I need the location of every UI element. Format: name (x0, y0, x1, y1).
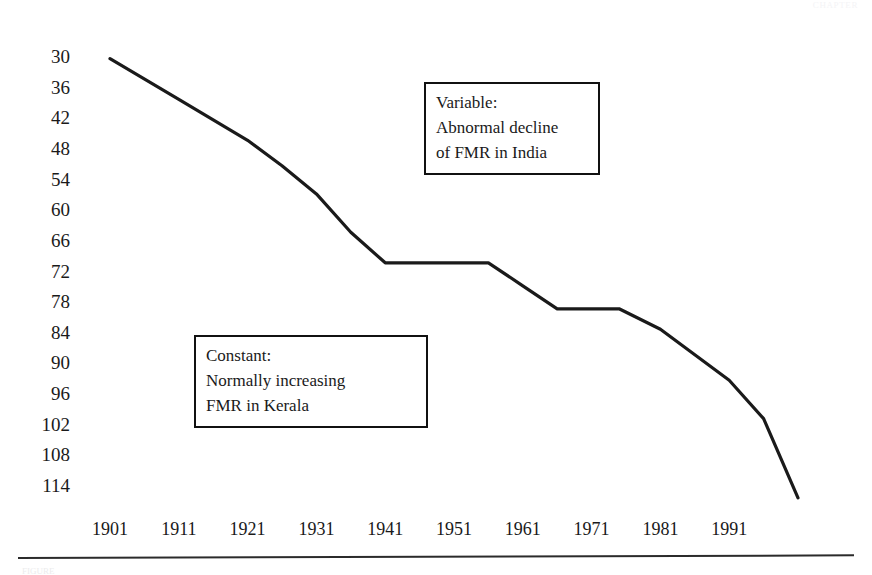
variable-callout: Variable:Abnormal declineof FMR in India (424, 82, 600, 175)
y-axis-tick-42: 42 (10, 108, 70, 127)
y-axis-tick-96: 96 (10, 384, 70, 403)
y-axis-tick-72: 72 (10, 261, 70, 280)
y-axis-tick-labels: 303642485460667278849096102108114 (8, 0, 70, 510)
x-axis-tick-labels: 1901191119211931194119511961197119811991 (0, 518, 872, 548)
footer-divider (18, 554, 854, 559)
constant-callout-line-3: FMR in Kerala (206, 393, 416, 418)
variable-callout-line-3: of FMR in India (436, 140, 588, 165)
y-axis-tick-108: 108 (10, 445, 70, 464)
y-axis-tick-48: 48 (10, 138, 70, 157)
y-axis-tick-78: 78 (10, 292, 70, 311)
constant-callout-line-1: Constant: (206, 343, 416, 368)
line-chart-svg (0, 0, 872, 510)
variable-callout-line-2: Abnormal decline (436, 115, 588, 140)
y-axis-tick-54: 54 (10, 169, 70, 188)
x-axis-tick-1991: 1991 (689, 518, 769, 540)
constant-callout-line-2: Normally increasing (206, 368, 416, 393)
figure-container: CHAPTER 30364248546066727884909610210811… (0, 0, 872, 575)
y-axis-tick-114: 114 (10, 476, 70, 495)
y-axis-tick-30: 30 (10, 47, 70, 66)
y-axis-tick-102: 102 (10, 414, 70, 433)
y-axis-tick-36: 36 (10, 77, 70, 96)
y-axis-tick-66: 66 (10, 230, 70, 249)
y-axis-tick-90: 90 (10, 353, 70, 372)
constant-callout: Constant:Normally increasingFMR in Keral… (194, 335, 428, 428)
y-axis-tick-60: 60 (10, 200, 70, 219)
chart-plot-area (0, 0, 872, 510)
variable-callout-line-1: Variable: (436, 90, 588, 115)
y-axis-tick-84: 84 (10, 322, 70, 341)
footer-caption-cut: FIGURE (22, 566, 55, 575)
